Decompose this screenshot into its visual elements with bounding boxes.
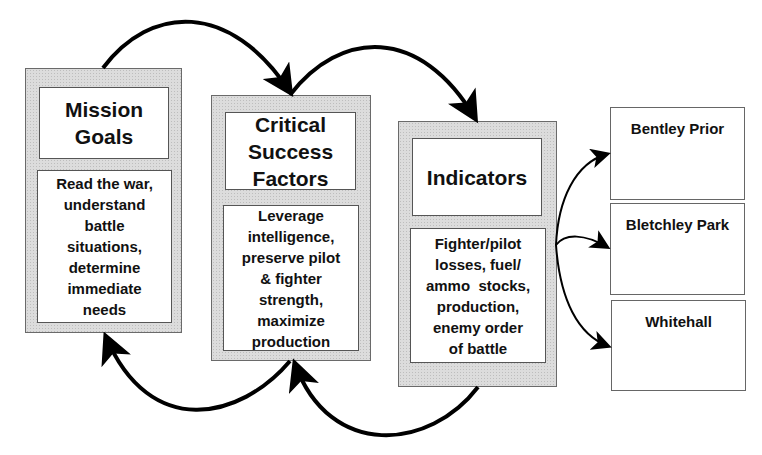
stage-critical-success-factors-body: Leverage intelligence, preserve pilot & …	[223, 205, 359, 351]
destination-bentley-prior: Bentley Prior	[610, 107, 745, 200]
arrow-indicators-to-whitehall	[556, 245, 608, 346]
destination-label: Whitehall	[645, 313, 712, 330]
body-line: determine	[56, 257, 153, 278]
title-line: Success	[248, 138, 333, 165]
arrow-indicators-to-bentley	[556, 154, 607, 245]
body-line: situations,	[56, 236, 153, 257]
body-line: intelligence,	[242, 226, 340, 247]
body-line: ammo stocks,	[426, 275, 530, 296]
title-line: Critical	[248, 111, 333, 138]
body-line: enemy order	[426, 317, 530, 338]
stage-critical-success-factors-title: Critical Success Factors	[225, 112, 356, 190]
title-line: Factors	[248, 165, 333, 192]
body-line: needs	[56, 299, 153, 320]
body-line: of battle	[426, 338, 530, 359]
stage-mission-goals-title: Mission Goals	[39, 87, 169, 159]
stage-indicators-body: Fighter/pilot losses, fuel/ ammo stocks,…	[410, 228, 546, 363]
body-line: losses, fuel/	[426, 254, 530, 275]
body-line: Fighter/pilot	[426, 233, 530, 254]
arrow-indicators-to-bletchley	[556, 237, 607, 247]
diagram-canvas: Mission Goals Read the war, understand b…	[0, 0, 762, 455]
body-line: Read the war,	[56, 173, 153, 194]
destination-label: Bentley Prior	[631, 120, 724, 137]
body-line: production,	[426, 296, 530, 317]
stage-indicators-title: Indicators	[412, 138, 542, 216]
body-line: Leverage	[242, 205, 340, 226]
body-line: understand	[56, 194, 153, 215]
body-line: preserve pilot	[242, 247, 340, 268]
body-line: maximize	[242, 310, 340, 331]
destination-bletchley-park: Bletchley Park	[610, 203, 745, 295]
title-line: Mission	[65, 96, 143, 123]
body-line: & fighter	[242, 268, 340, 289]
destination-label: Bletchley Park	[626, 216, 729, 233]
body-line: battle	[56, 215, 153, 236]
body-line: strength,	[242, 289, 340, 310]
destination-whitehall: Whitehall	[611, 300, 746, 391]
title-line: Goals	[65, 123, 143, 150]
stage-mission-goals-body: Read the war, understand battle situatio…	[37, 170, 172, 323]
body-line: immediate	[56, 278, 153, 299]
body-line: production	[242, 331, 340, 352]
title-line: Indicators	[427, 164, 527, 191]
